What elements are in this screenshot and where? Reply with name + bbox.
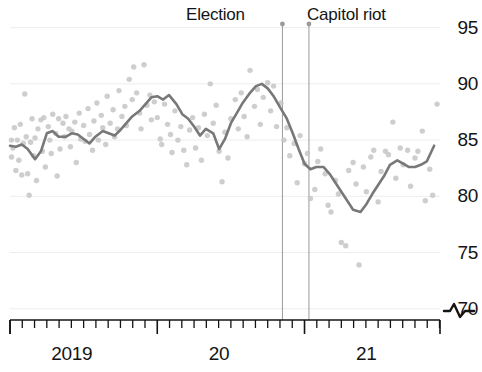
chart-container: Election Capitol riot 959085807570 20192… bbox=[0, 0, 482, 372]
broken-axis-squiggle-icon bbox=[442, 300, 476, 320]
y-tick-label-85: 85 bbox=[436, 130, 478, 149]
gridlines-group bbox=[10, 28, 440, 309]
y-tick-label-80: 80 bbox=[436, 186, 478, 205]
scatter-points-group bbox=[9, 62, 440, 268]
x-tick-label-20: 20 bbox=[179, 344, 259, 363]
x-axis-group bbox=[10, 320, 440, 334]
event-label-election: Election bbox=[186, 6, 245, 23]
event-lines-group bbox=[280, 22, 311, 320]
y-tick-label-95: 95 bbox=[436, 18, 478, 37]
chart-plot-area bbox=[0, 0, 482, 372]
event-label-capitol-riot: Capitol riot bbox=[307, 6, 386, 23]
y-tick-label-90: 90 bbox=[436, 74, 478, 93]
x-tick-label-2019: 2019 bbox=[32, 344, 112, 363]
trend-line-group bbox=[10, 84, 434, 212]
y-tick-label-75: 75 bbox=[436, 243, 478, 262]
x-tick-label-21: 21 bbox=[326, 344, 406, 363]
